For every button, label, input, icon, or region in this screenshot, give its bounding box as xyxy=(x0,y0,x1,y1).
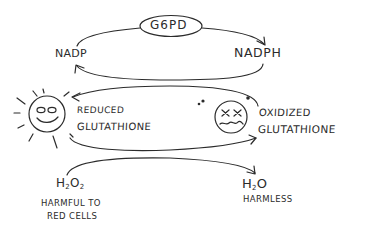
arrow-h2o2-to-h2o xyxy=(67,158,255,175)
arrow-nadph-to-nadp xyxy=(77,64,263,80)
oxidized-glutathione-line2: GLUTATHIONE xyxy=(258,124,336,135)
h2o-o: O xyxy=(257,176,268,191)
diagram-lines xyxy=(0,0,367,228)
harmless-note: HARMLESS xyxy=(243,195,293,204)
harmful-note-line1: HARMFUL TO xyxy=(41,199,101,208)
h2o2-formula: H2O2 xyxy=(56,177,85,191)
nadp-label: NADP xyxy=(55,48,87,59)
dizzy-sad-face-icon xyxy=(215,101,247,133)
h2o-formula: H2O xyxy=(242,177,267,192)
reduced-glutathione-line2: GLUTATHIONE xyxy=(77,122,152,132)
smiling-sun-face-icon xyxy=(14,89,73,148)
harmful-note-line2: RED CELLS xyxy=(47,212,97,221)
reduced-glutathione-line1: REDUCED xyxy=(77,106,125,115)
sweat-drops-icon xyxy=(198,96,250,105)
h2o2-h: H xyxy=(56,176,65,190)
arrow-oxidized-to-reduced xyxy=(73,86,258,106)
g6pd-label: G6PD xyxy=(150,19,187,31)
h2o-h: H xyxy=(242,176,252,191)
h2o2-o: O xyxy=(70,176,80,190)
arrowhead-reduced xyxy=(72,93,80,101)
nadph-label: NADPH xyxy=(234,47,281,60)
g6pd-pathway-diagram: G6PD NADP NADPH REDUCED GLUTATHIONE OXID… xyxy=(0,0,367,228)
oxidized-glutathione-line1: OXIDIZED xyxy=(259,108,311,118)
h2o2-sub2: 2 xyxy=(80,183,85,191)
arrow-reduced-to-oxidized xyxy=(70,138,256,151)
